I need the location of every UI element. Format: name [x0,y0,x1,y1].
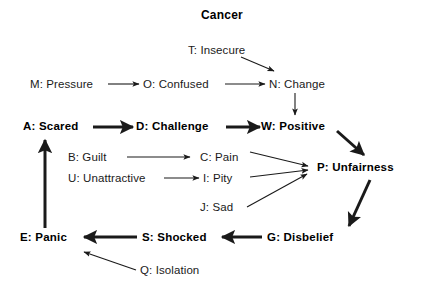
node-j: J: Sad [200,201,233,214]
node-c: C: Pain [200,151,238,164]
edge-w-to-p [337,131,364,155]
node-e: E: Panic [20,231,67,244]
node-g: G: Disbelief [267,231,333,244]
node-o: O: Confused [143,78,209,91]
diagram-title: Cancer [201,8,243,22]
node-d: D: Challenge [136,120,209,133]
edge-j-to-p [247,174,307,207]
node-u: U: Unattractive [68,172,146,185]
node-a: A: Scared [23,120,79,133]
node-i: I: Pity [203,172,232,185]
node-n: N: Change [269,78,325,91]
diagram-canvas: Cancer T: InsecureM: PressureO: Confused… [0,0,423,298]
edge-t-to-n [241,57,274,71]
node-b: B: Guilt [68,151,107,164]
node-p: P: Unfairness [317,161,394,174]
edge-q-to-e [84,252,136,270]
node-q: Q: Isolation [140,264,199,277]
node-t: T: Insecure [188,44,245,57]
edge-c-to-p [250,152,308,166]
node-w: W: Positive [261,120,325,133]
edge-i-to-p [250,170,308,177]
node-m: M: Pressure [30,78,93,91]
edge-p-to-g [349,180,370,226]
node-s: S: Shocked [142,231,207,244]
